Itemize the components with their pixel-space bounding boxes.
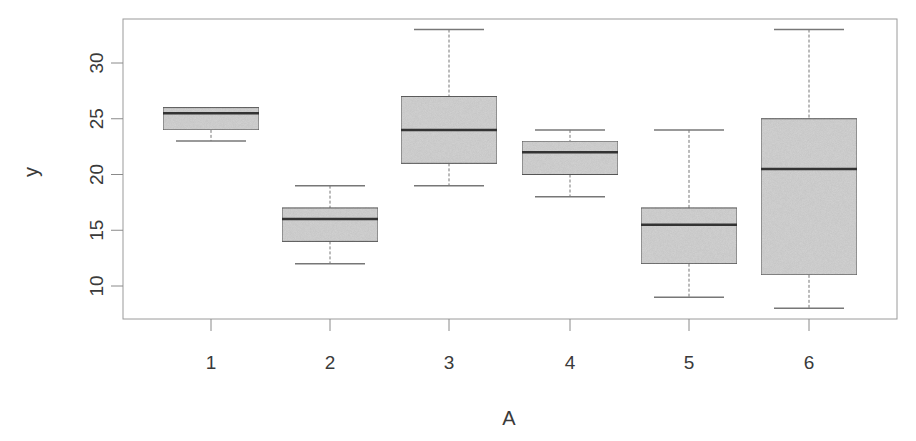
x-tick-label: 5 xyxy=(684,352,695,373)
y-tick-label: 15 xyxy=(86,220,107,241)
x-tick-label: 4 xyxy=(565,352,576,373)
iqr-box xyxy=(641,208,737,264)
y-axis: 1015202530 xyxy=(86,52,123,296)
x-tick-label: 3 xyxy=(444,352,455,373)
x-tick-label: 6 xyxy=(804,352,815,373)
y-tick-label: 10 xyxy=(86,275,107,296)
x-tick-label: 1 xyxy=(206,352,217,373)
x-axis-label: A xyxy=(502,407,516,429)
box-group-3 xyxy=(401,30,497,186)
y-tick-label: 30 xyxy=(86,52,107,73)
y-tick-label: 20 xyxy=(86,164,107,185)
iqr-box xyxy=(282,208,378,241)
box-group-5 xyxy=(641,130,737,297)
x-axis: 123456 xyxy=(206,319,815,373)
y-tick-label: 25 xyxy=(86,108,107,129)
box-group-4 xyxy=(522,130,618,197)
iqr-box xyxy=(163,108,259,130)
y-axis-label: y xyxy=(20,167,42,177)
boxes xyxy=(163,30,857,309)
box-group-6 xyxy=(761,30,857,309)
box-group-1 xyxy=(163,108,259,141)
box-group-2 xyxy=(282,186,378,264)
iqr-box xyxy=(522,141,618,174)
boxplot-chart: 1015202530 123456 A y xyxy=(0,0,916,441)
x-tick-label: 2 xyxy=(325,352,336,373)
iqr-box xyxy=(761,119,857,275)
